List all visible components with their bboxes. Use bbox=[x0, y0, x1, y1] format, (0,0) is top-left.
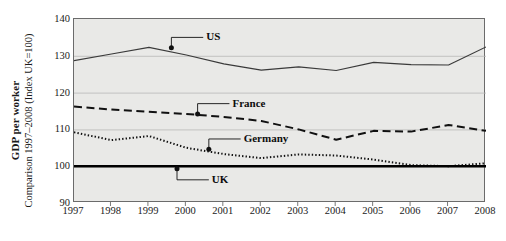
x-tick-2007: 2007 bbox=[437, 205, 458, 216]
annotation-leader-us bbox=[171, 37, 203, 47]
x-tick-2001: 2001 bbox=[212, 205, 233, 216]
annotation-leader-germany bbox=[209, 139, 241, 149]
y-tick-130: 130 bbox=[44, 49, 70, 60]
x-tick-1998: 1998 bbox=[100, 205, 121, 216]
x-tick-2002: 2002 bbox=[250, 205, 271, 216]
annotation-marker-germany bbox=[206, 147, 211, 152]
series-label-uk: UK bbox=[212, 173, 229, 185]
x-tick-2004: 2004 bbox=[325, 205, 346, 216]
x-tick-2005: 2005 bbox=[362, 205, 383, 216]
y-tick-140: 140 bbox=[44, 13, 70, 24]
annotation-marker-us bbox=[169, 45, 174, 50]
x-axis-tick-labels: 1997199819992000200120022003200420052006… bbox=[0, 205, 506, 225]
x-tick-2000: 2000 bbox=[175, 205, 196, 216]
plot-area bbox=[73, 18, 485, 202]
x-tick-1999: 1999 bbox=[137, 205, 158, 216]
series-label-france: France bbox=[232, 97, 265, 109]
x-tick-1997: 1997 bbox=[63, 205, 84, 216]
x-tick-2003: 2003 bbox=[287, 205, 308, 216]
series-line-us bbox=[74, 47, 486, 71]
chart-figure: GDP per worker Comparison 1997–2008 (Ind… bbox=[0, 0, 506, 241]
annotation-marker-uk bbox=[175, 166, 180, 171]
y-tick-100: 100 bbox=[44, 160, 70, 171]
series-label-germany: Germany bbox=[244, 132, 289, 144]
x-tick-2008: 2008 bbox=[475, 205, 496, 216]
annotation-leader-france bbox=[198, 104, 230, 114]
y-axis-title-sub: Comparison 1997–2008 (Index UK=100) bbox=[23, 33, 35, 207]
annotation-marker-france bbox=[195, 111, 200, 116]
annotation-leader-uk bbox=[177, 169, 209, 180]
series-label-us: US bbox=[206, 30, 220, 42]
y-tick-120: 120 bbox=[44, 86, 70, 97]
plot-svg bbox=[74, 19, 486, 203]
y-tick-110: 110 bbox=[44, 123, 70, 134]
y-axis-title-main: GDP per worker bbox=[9, 81, 21, 160]
x-tick-2006: 2006 bbox=[400, 205, 421, 216]
